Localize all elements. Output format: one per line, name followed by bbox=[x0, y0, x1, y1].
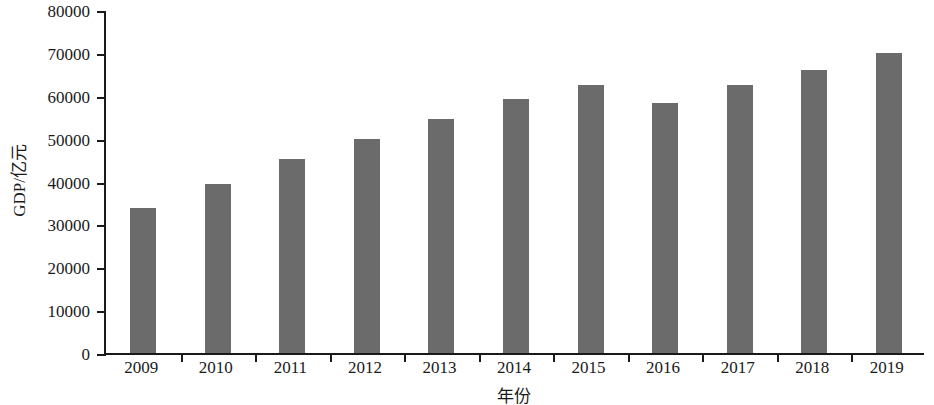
x-axis-tick-label: 2012 bbox=[348, 358, 382, 378]
y-axis-tick-label: 0 bbox=[82, 345, 91, 365]
y-axis-tick-label: 70000 bbox=[48, 45, 91, 65]
y-axis-tick bbox=[97, 354, 106, 356]
x-axis-tick-label: 2017 bbox=[721, 358, 755, 378]
y-axis-tick bbox=[97, 311, 106, 313]
bar-chart-figure: GDP/亿元 010000200003000040000500006000070… bbox=[0, 0, 934, 405]
x-axis-tick-label: 2019 bbox=[870, 358, 904, 378]
y-axis-tick-label: 80000 bbox=[48, 2, 91, 22]
bar bbox=[503, 99, 529, 353]
y-axis-tick bbox=[97, 225, 106, 227]
bar bbox=[578, 85, 604, 353]
x-axis-tick-labels: 2009201020112012201320142015201620172018… bbox=[104, 358, 924, 384]
y-axis-tick-label: 50000 bbox=[48, 131, 91, 151]
y-axis-tick-label: 40000 bbox=[48, 174, 91, 194]
x-axis-tick-label: 2018 bbox=[795, 358, 829, 378]
plot-area bbox=[104, 12, 924, 355]
x-axis-title: 年份 bbox=[104, 382, 924, 405]
bar bbox=[876, 53, 902, 353]
y-axis-tick-label: 30000 bbox=[48, 216, 91, 236]
x-axis-tick-label: 2015 bbox=[572, 358, 606, 378]
x-axis-tick-label: 2014 bbox=[497, 358, 531, 378]
x-axis-tick-label: 2013 bbox=[422, 358, 456, 378]
y-axis-tick bbox=[97, 11, 106, 13]
x-axis-tick-label: 2016 bbox=[646, 358, 680, 378]
y-axis-tick-label: 60000 bbox=[48, 88, 91, 108]
bar bbox=[205, 184, 231, 353]
y-axis-tick bbox=[97, 268, 106, 270]
y-axis-tick bbox=[97, 183, 106, 185]
y-axis-tick bbox=[97, 140, 106, 142]
bar bbox=[130, 208, 156, 353]
x-axis-tick-label: 2009 bbox=[124, 358, 158, 378]
y-axis-tick-labels: 0100002000030000400005000060000700008000… bbox=[0, 0, 104, 405]
y-axis-tick bbox=[97, 97, 106, 99]
bar bbox=[354, 139, 380, 353]
bar bbox=[428, 119, 454, 353]
x-axis-tick-label: 2010 bbox=[199, 358, 233, 378]
x-axis-tick-label: 2011 bbox=[274, 358, 307, 378]
bar bbox=[727, 85, 753, 353]
bar bbox=[279, 159, 305, 353]
bar bbox=[652, 103, 678, 353]
y-axis-tick-label: 10000 bbox=[48, 302, 91, 322]
y-axis-tick-label: 20000 bbox=[48, 259, 91, 279]
bar bbox=[801, 70, 827, 353]
y-axis-tick bbox=[97, 54, 106, 56]
